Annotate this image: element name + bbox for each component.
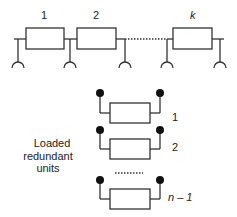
chain-label-k: k bbox=[190, 9, 196, 21]
unit-box-2 bbox=[77, 28, 116, 49]
redundant-label-n-1: n – 1 bbox=[168, 191, 192, 203]
ground-taps bbox=[12, 39, 226, 68]
redundant-unit-n-1 bbox=[100, 180, 160, 209]
redundant-unit-1 bbox=[100, 93, 160, 123]
unit-box-k bbox=[173, 28, 212, 49]
chain-label-2: 2 bbox=[93, 9, 99, 21]
series-chain bbox=[12, 28, 226, 68]
unit-box-1 bbox=[26, 28, 64, 49]
caption-line-2: redundant bbox=[23, 150, 73, 162]
redundant-label-2: 2 bbox=[172, 141, 178, 153]
redundant-label-1: 1 bbox=[172, 111, 178, 123]
redundancy-diagram: 1 2 k 1 2 n – 1 Loaded redundant units bbox=[0, 0, 237, 217]
chain-label-1: 1 bbox=[41, 9, 47, 21]
caption-line-3: units bbox=[36, 162, 60, 174]
redundant-unit-2 bbox=[100, 130, 160, 159]
caption-line-1: Loaded bbox=[34, 137, 71, 149]
